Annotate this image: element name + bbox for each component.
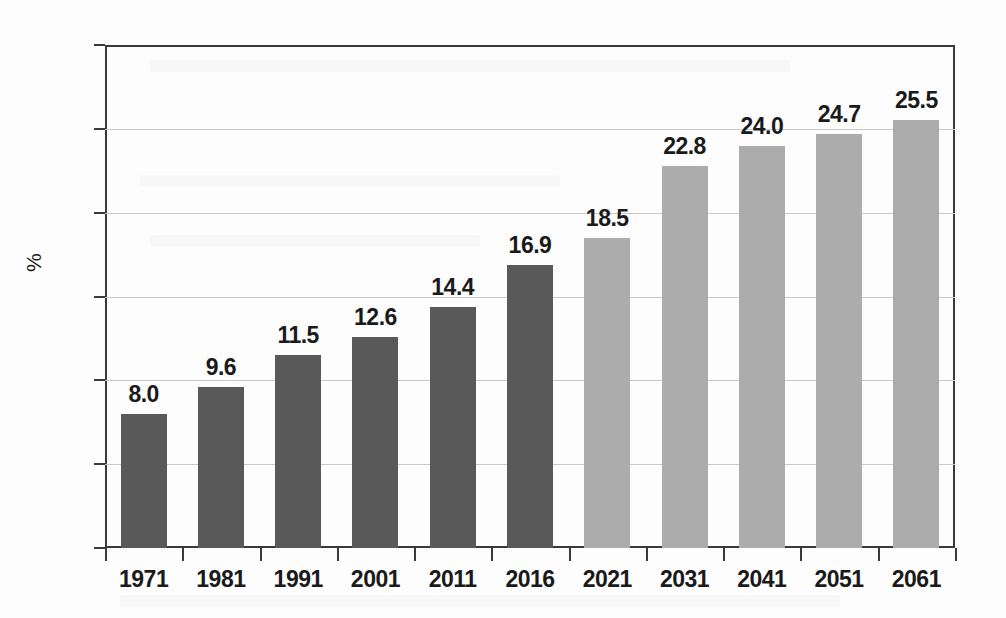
bar-value-label: 12.6 [354,304,397,331]
bar-1991[interactable] [275,355,321,548]
x-axis-label-2061: 2061 [892,566,941,593]
x-axis-label-2021: 2021 [583,566,632,593]
bar-slot: 9.6 [182,45,259,548]
x-axis-tick [723,548,725,561]
x-axis-tick [182,548,184,561]
bar-value-label: 18.5 [586,205,629,232]
bar-slot: 25.5 [878,45,955,548]
bar-slot: 11.5 [260,45,337,548]
x-axis-label-2011: 2011 [429,566,477,593]
bar-2016[interactable] [507,265,553,548]
bar-value-label: 9.6 [206,354,236,381]
bar-slot: 22.8 [646,45,723,548]
bar-value-label: 11.5 [277,322,319,349]
x-axis-label-2031: 2031 [660,566,709,593]
bar-value-label: 22.8 [663,133,706,160]
chart-page: 051015202530 % 8.09.611.512.614.416.918.… [0,0,1006,618]
x-axis-label-2041: 2041 [737,566,786,593]
bar-slot: 18.5 [569,45,646,548]
x-axis-label-1971: 1971 [119,566,168,593]
bar-2051[interactable] [816,134,862,548]
bar-2021[interactable] [584,238,630,548]
y-axis-title: % [22,253,46,272]
bar-1971[interactable] [121,414,167,548]
x-axis-tick [569,548,571,561]
bar-value-label: 16.9 [509,232,552,259]
x-axis-label-2001: 2001 [351,566,400,593]
x-axis-tick [414,548,416,561]
x-axis-tick [646,548,648,561]
bar-slot: 24.7 [800,45,877,548]
x-axis-tick [878,548,880,561]
bar-1981[interactable] [198,387,244,548]
bar-slot: 8.0 [105,45,182,548]
y-axis-tick [94,128,105,130]
y-axis-tick [94,44,105,46]
bar-2011[interactable] [430,307,476,548]
x-axis-tick [105,548,107,561]
bar-slot: 14.4 [414,45,491,548]
bar-slot: 16.9 [491,45,568,548]
y-axis-tick [94,379,105,381]
x-axis-label-1981: 1981 [196,566,245,593]
bar-2001[interactable] [352,337,398,548]
bar-2041[interactable] [739,146,785,548]
bar-slot: 12.6 [337,45,414,548]
bar-value-label: 24.0 [740,113,783,140]
x-axis-label-1991: 1991 [274,566,323,593]
bar-value-label: 8.0 [128,381,158,408]
y-axis-tick [94,463,105,465]
x-axis-tick [800,548,802,561]
x-axis-tick [491,548,493,561]
plot-area: 8.09.611.512.614.416.918.522.824.024.725… [105,45,955,548]
x-axis-label-2016: 2016 [505,566,554,593]
x-axis-tick [955,548,957,561]
bar-slot: 24.0 [723,45,800,548]
y-axis-tick [94,547,105,549]
bar-value-label: 25.5 [895,87,938,114]
y-axis-tick [94,296,105,298]
x-axis-tick [260,548,262,561]
bar-2061[interactable] [893,120,939,548]
bar-value-label: 14.4 [431,274,474,301]
bar-value-label: 24.7 [818,101,861,128]
figure-caption [64,598,944,618]
y-axis-tick [94,212,105,214]
bar-2031[interactable] [662,166,708,548]
x-axis-tick [337,548,339,561]
x-axis-label-2051: 2051 [814,566,863,593]
